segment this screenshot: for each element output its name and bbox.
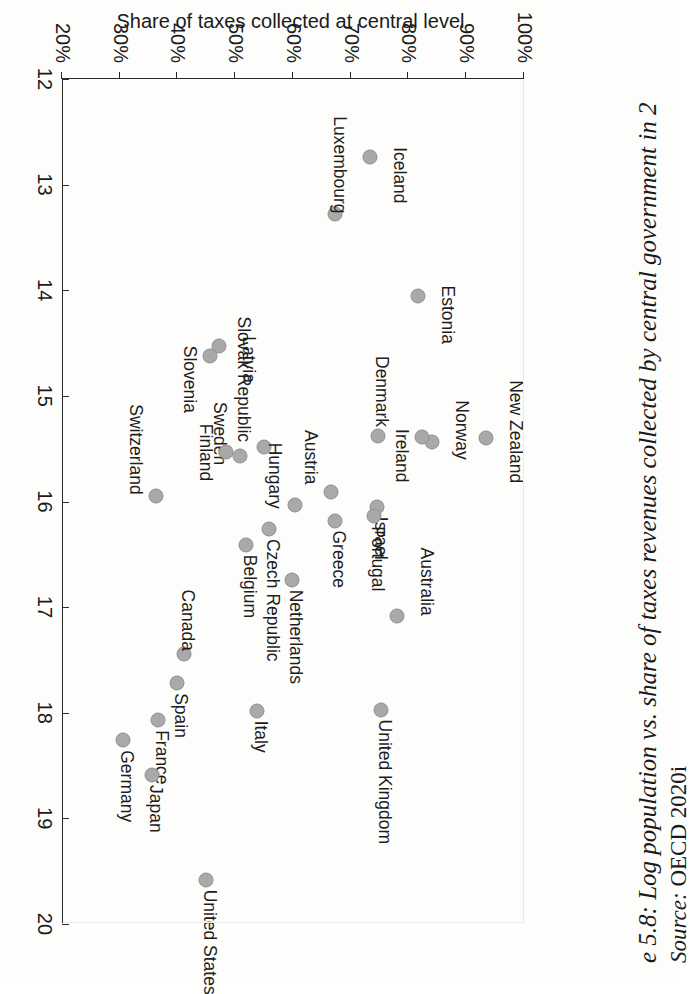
data-point[interactable] [374, 702, 389, 717]
data-point-label: Norway [452, 400, 470, 459]
data-point[interactable] [362, 149, 377, 164]
data-point[interactable] [323, 484, 338, 499]
x-axis-tick [62, 395, 69, 396]
chart-stage: 12131415161718192020%30%40%50%60%70%80%9… [22, 20, 542, 920]
data-point[interactable] [287, 497, 302, 512]
y-axis-tick [61, 72, 62, 79]
data-point[interactable] [170, 675, 185, 690]
data-point-label: Slovak Republic [235, 316, 253, 441]
data-point-label: Greece [330, 530, 348, 587]
data-point[interactable] [411, 288, 426, 303]
data-point[interactable] [328, 513, 343, 528]
data-point-label: Japan [147, 785, 165, 833]
x-axis-tick-label: 16 [33, 490, 56, 513]
x-axis-tick [62, 607, 69, 608]
data-point-label: Netherlands [286, 589, 304, 683]
data-point[interactable] [371, 428, 386, 443]
y-axis-tick [176, 72, 177, 79]
x-axis-tick [62, 501, 69, 502]
data-point[interactable] [389, 608, 404, 623]
y-axis-tick-label: 100% [513, 11, 536, 62]
data-point[interactable] [366, 508, 381, 523]
data-point[interactable] [284, 572, 299, 587]
x-axis-tick [62, 924, 69, 925]
data-point-label: Luxembourg [330, 116, 348, 213]
data-point-label: Hungary [265, 442, 283, 508]
data-point-label: Belgium [240, 554, 258, 617]
data-point[interactable] [149, 488, 164, 503]
data-point[interactable] [198, 872, 213, 887]
data-point-label: New Zealand [507, 380, 525, 483]
x-axis-tick-label: 18 [33, 701, 56, 724]
data-point-label: Canada [179, 589, 197, 650]
y-axis-title: Share of taxes collected at central leve… [117, 10, 465, 33]
data-point-label: Denmark [373, 356, 391, 427]
data-point[interactable] [116, 732, 131, 747]
x-axis-tick [62, 184, 69, 185]
figure-caption: e 5.8: Log population vs. share of taxes… [634, 103, 662, 963]
data-point-label: United States [200, 889, 218, 994]
data-point-label: Germany [118, 750, 136, 822]
data-point-label: Spain [172, 693, 190, 738]
y-axis-tick-label: 20% [51, 22, 74, 62]
x-axis-tick-label: 17 [33, 595, 56, 618]
y-axis-tick [234, 72, 235, 79]
data-point[interactable] [249, 703, 264, 718]
y-axis-tick [119, 72, 120, 79]
x-axis-tick-label: 13 [33, 173, 56, 196]
x-axis-tick [62, 79, 69, 80]
data-point-label: Ireland [392, 429, 410, 483]
data-point-label: United Kingdom [376, 719, 394, 844]
x-axis-tick-label: 20 [33, 912, 56, 935]
data-point[interactable] [150, 712, 165, 727]
data-point[interactable] [414, 429, 429, 444]
data-point[interactable] [232, 448, 247, 463]
source-value: OECD 2020i [666, 766, 691, 887]
plot-area: 12131415161718192020%30%40%50%60%70%80%9… [62, 78, 524, 923]
data-point[interactable] [479, 430, 494, 445]
figure-source: Source: OECD 2020i [666, 766, 691, 963]
data-point-label: Austria [301, 429, 319, 483]
data-point-label: Slovenia [180, 345, 198, 412]
data-point-label: Finland [197, 423, 215, 480]
data-point[interactable] [145, 767, 160, 782]
data-point-label: Estonia [439, 285, 457, 343]
y-axis-tick [407, 72, 408, 79]
data-point-label: Italy [251, 720, 269, 752]
data-point-label: Switzerland [127, 404, 145, 494]
y-axis-tick [523, 72, 524, 79]
x-axis-tick [62, 818, 69, 819]
y-axis-tick [465, 72, 466, 79]
x-axis-tick-label: 15 [33, 384, 56, 407]
data-point-label: Australia [417, 547, 435, 615]
y-axis-tick [292, 72, 293, 79]
x-axis-tick [62, 290, 69, 291]
x-axis-tick-label: 12 [33, 67, 56, 90]
x-axis-tick-label: 19 [33, 807, 56, 830]
data-point-label: Portugal [368, 526, 386, 591]
source-label: Source: [666, 892, 691, 963]
data-point[interactable] [261, 521, 276, 536]
data-point[interactable] [219, 444, 234, 459]
data-point[interactable] [202, 348, 217, 363]
x-axis-tick-label: 14 [33, 278, 56, 301]
data-point-label: Iceland [390, 147, 408, 203]
data-point-label: Czech Republic [263, 538, 281, 661]
caption-block: e 5.8: Log population vs. share of taxes… [578, 0, 674, 983]
x-axis-tick [62, 712, 69, 713]
y-axis-tick [350, 72, 351, 79]
data-point[interactable] [238, 537, 253, 552]
